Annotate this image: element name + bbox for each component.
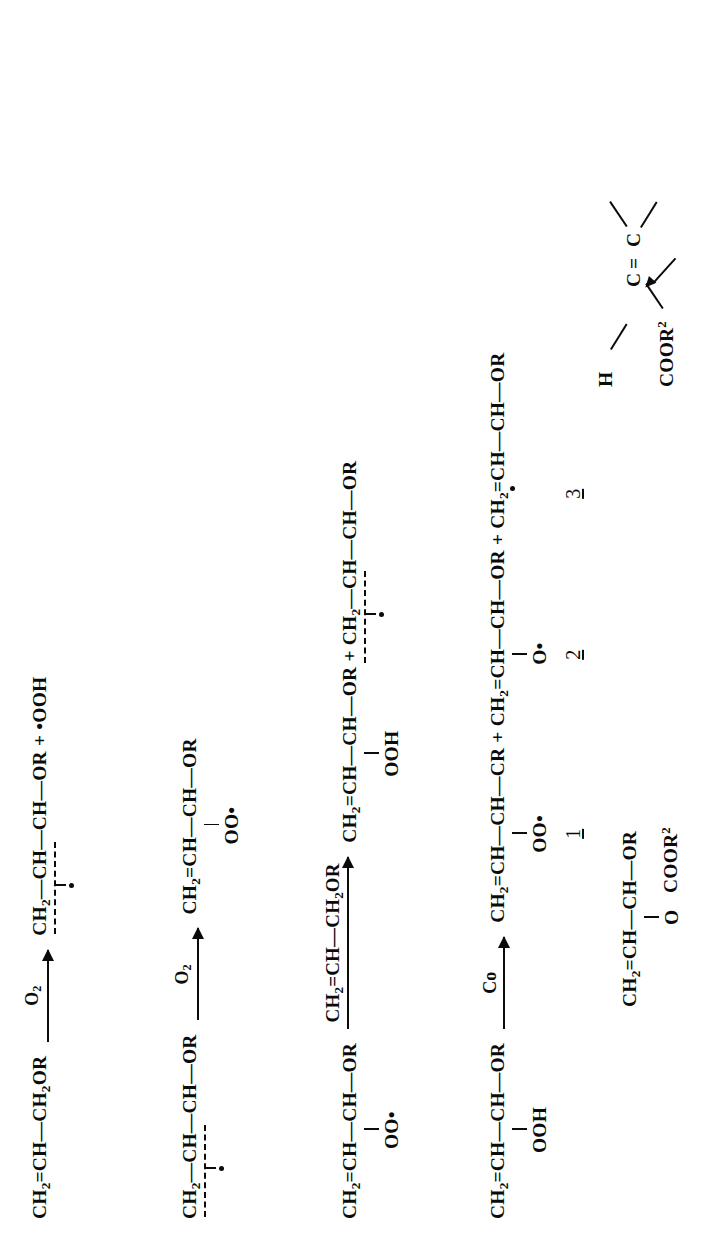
r4-prod3-a: CH <box>487 499 508 529</box>
r2-radical-dot <box>219 1166 224 1171</box>
r2-delocalisation-tick <box>204 1167 216 1169</box>
r3-prod1-b: =CH—CH—OR <box>339 667 360 807</box>
r4-prod2-b: =CH—CH—OR <box>487 550 508 690</box>
alkene-h-label: H <box>596 372 616 387</box>
r4-prod2-a: CH <box>487 697 508 727</box>
r3-arrow-a-sub: 2 <box>331 987 346 994</box>
reaction-2-product-formula: CH2=CH—CH—OR <box>180 738 203 914</box>
reaction-4-reactant: CH2=CH—CH—OR OOH <box>488 1043 511 1219</box>
alkene-bond-lower-right <box>640 202 658 229</box>
r3-arrow-b: =CH—CH <box>322 899 343 987</box>
reaction-2-product: CH2=CH—CH—OR OO• <box>180 738 203 914</box>
bottom-ester-sup: 2 <box>659 827 673 834</box>
r1-react-head-sub: 2 <box>38 1183 53 1190</box>
r1-prod-b: —CH—CH—OR <box>29 751 50 899</box>
r4-prod1-b: =CH—CH—CR <box>487 748 508 887</box>
r3-prod2-a: CH <box>339 616 360 646</box>
reaction-4-arrow-line <box>503 937 505 1029</box>
r3-prod2-b: —CH—CH—OR <box>339 461 360 609</box>
r4-reactant-substituent: OOH <box>530 1107 550 1153</box>
r4-prod-plus-2: + <box>487 534 508 545</box>
alkene-attack-arrow-shaft <box>652 258 676 285</box>
reaction-2-arrow: O2 <box>172 928 199 1020</box>
compound-number-3: 3 <box>562 489 585 499</box>
reaction-2-arrow-line <box>197 928 199 1020</box>
reaction-1-arrow-label: O2 <box>22 986 45 1006</box>
alkene-carbon-right: C <box>624 233 644 247</box>
reaction-3-product: CH2=CH—CH—OR + CH2—CH—CH—OR OOH <box>340 461 363 843</box>
r4-prod1-a: CH <box>487 893 508 923</box>
reaction-1-arrow: O2 <box>22 950 49 1042</box>
r3-react-b: =CH—CH—OR <box>339 1043 360 1183</box>
reaction-4-arrow: Co <box>480 937 505 1029</box>
alkene-fragment: H COOR2 C = C 2 <box>570 127 700 387</box>
bottom-species-bond-tick <box>644 916 659 918</box>
r4-prod3-a-sub: 2 <box>496 492 511 499</box>
r3-react-a: CH <box>339 1189 360 1219</box>
reaction-4-product: CH2=CH—CH—CR + CH2=CH—CH—OR + CH2=CH—CH—… <box>488 353 511 923</box>
r4-react-a: CH <box>487 1189 508 1219</box>
bottom-ester-text: COOR <box>660 834 681 893</box>
r2-arrow-o-sub: 2 <box>180 964 194 970</box>
page-rotator: CH2=CH—CH2OR O2 CH2—CH—CH—OR + •OOH CH2—… <box>0 0 706 1259</box>
alkene-ester-sup: 2 <box>655 321 669 328</box>
r1-react-head: CH <box>29 1189 50 1219</box>
r1-arrow-o-sub: 2 <box>30 986 44 992</box>
r4-product2-substituent: O• <box>530 642 550 664</box>
reaction-3-product-formula: CH2=CH—CH—OR + CH2—CH—CH—OR <box>340 461 363 843</box>
reaction-2-reactant: CH2—CH—CH—OR <box>180 1034 203 1219</box>
r1-prod-a: CH <box>29 906 50 936</box>
bottom-chain-a-sub: 2 <box>628 971 643 978</box>
reaction-4-product-formula: CH2=CH—CH—CR + CH2=CH—CH—OR + CH2=CH—CH—… <box>488 353 511 923</box>
compound-number-2: 2 <box>562 650 585 660</box>
compound-number-1: 1 <box>562 829 585 839</box>
r2-react-a: CH <box>179 1189 200 1219</box>
r1-react-dash: —CH <box>29 1092 50 1141</box>
r3-react-a-sub: 2 <box>348 1183 363 1190</box>
r1-prod-plus: + <box>29 735 50 746</box>
r3-product2-delocalisation-tick <box>364 613 376 615</box>
r2-arrow-o: O <box>172 971 192 985</box>
reaction-3-arrow-line <box>347 857 349 1029</box>
bottom-left-species: CH2=CH—CH—OR O COOR2 <box>620 831 643 1007</box>
r3-prod1-a-sub: 2 <box>348 806 363 813</box>
r1-radical-dot <box>69 883 74 888</box>
r3-prod1-a: CH <box>339 813 360 843</box>
r1-react-tail-sub: 2 <box>38 1085 53 1092</box>
r3-reactant-substituent: OO• <box>382 1111 402 1149</box>
bottom-left-species-formula: CH2=CH—CH—OR <box>620 831 643 1007</box>
r2-product-substituent: OO• <box>222 807 242 845</box>
bottom-chain-a: CH <box>619 977 640 1007</box>
reaction-2-arrow-label: O2 <box>172 964 195 984</box>
r4-prod2-a-sub: 2 <box>496 690 511 697</box>
reaction-3-arrow: CH2=CH—CH2OR <box>322 857 349 1029</box>
r3-arrow-a: CH <box>322 994 343 1023</box>
reaction-1-reactant: CH2=CH—CH2OR <box>30 1056 53 1219</box>
r3-product2-delocalisation-dash <box>364 571 366 663</box>
reaction-4-reactant-formula: CH2=CH—CH—OR <box>488 1043 511 1219</box>
reaction-3-reactant: CH2=CH—CH—OR OO• <box>340 1043 363 1219</box>
reaction-1-product: CH2—CH—CH—OR + •OOH <box>30 677 53 936</box>
r4-react-a-sub: 2 <box>496 1183 511 1190</box>
r4-react-b: =CH—CH—OR <box>487 1043 508 1183</box>
alkene-bond-h <box>610 324 628 351</box>
r4-product1-substituent: OO• <box>530 815 550 853</box>
r1-delocalisation-tick <box>54 884 66 886</box>
r1-react-eq: =CH <box>29 1142 50 1183</box>
reaction-3-reactant-formula: CH2=CH—CH—OR <box>340 1043 363 1219</box>
r3-reactant-bond-tick <box>364 1128 379 1130</box>
r3-product1-substituent: OOH <box>382 731 402 777</box>
reaction-3-arrow-label: CH2=CH—CH2OR <box>322 863 345 1022</box>
reaction-4-arrow-label: Co <box>480 972 501 994</box>
r2-prod-b: =CH—CH—OR <box>179 738 200 878</box>
bottom-species-oxygen: O <box>662 910 682 925</box>
alkene-bond-upper-right <box>609 201 627 227</box>
r3-arrow-c: OR <box>322 863 343 892</box>
r4-reactant-bond-tick <box>512 1128 527 1130</box>
r4-prod3-b: =CH—CH—OR <box>487 353 508 493</box>
r3-product1-bond-tick <box>364 752 379 754</box>
r4-product1-bond-tick <box>512 832 527 834</box>
reaction-row-3: CH2=CH—CH—OR OO• CH2=CH—CH2OR CH2=CH—CH—… <box>322 461 363 1219</box>
r1-prod-a-sub: 2 <box>38 899 53 906</box>
r3-prod-plus: + <box>339 650 360 661</box>
